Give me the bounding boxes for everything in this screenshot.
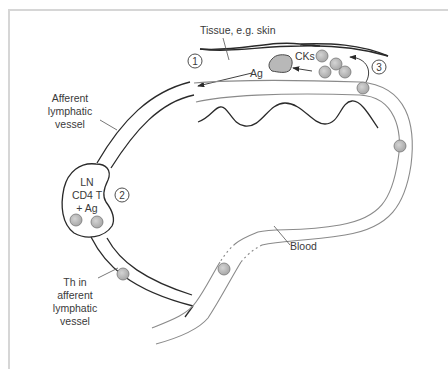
blood-label: Blood	[290, 240, 317, 252]
step-1-marker: 1	[188, 54, 202, 68]
afferent-lymphatic-vessel-outer	[97, 82, 190, 163]
afferent-leader	[100, 120, 117, 130]
t-cell-in-lymph	[117, 268, 129, 280]
step-3-marker: 3	[372, 60, 386, 74]
afferent-lymphatic-vessel-inner	[111, 95, 194, 168]
antigen-blob	[269, 55, 292, 73]
blood-vessel-inner	[194, 81, 412, 245]
cks-label: CKs	[295, 50, 315, 62]
afferent-label-line3: vessel	[55, 118, 85, 130]
afferent-label-line2: lymphatic	[48, 105, 92, 117]
t-cell-in-blood	[218, 263, 230, 275]
t-cell-in-node	[91, 216, 103, 228]
th-label-line3: lymphatic	[53, 302, 97, 314]
blood-vessel-lower-inner	[156, 262, 241, 344]
t-cell-in-blood	[357, 82, 369, 94]
blood-vessel-outer	[196, 94, 399, 244]
efferent-lymphatic-inner	[107, 238, 192, 295]
ln-label-line1: LN	[80, 176, 93, 188]
th-label-line2: afferent	[57, 289, 92, 301]
t-cell	[339, 66, 351, 78]
blood-vessel-lower-outer	[152, 262, 220, 328]
extravasation-arrow	[350, 57, 369, 82]
cks-arrow	[293, 68, 312, 71]
t-cell-in-node	[70, 214, 82, 226]
th-label-line4: vessel	[60, 315, 90, 327]
t-cell	[319, 66, 331, 78]
th-leader	[98, 268, 118, 278]
svg-text:2: 2	[119, 190, 125, 201]
ag-to-lymph-arrow	[198, 73, 252, 86]
svg-text:1: 1	[192, 56, 198, 67]
tissue-wavy-line	[198, 101, 378, 128]
ln-label-line3: + Ag	[76, 202, 97, 214]
t-cell	[316, 50, 328, 62]
t-cell-in-blood	[394, 140, 406, 152]
step-2-marker: 2	[115, 188, 129, 202]
svg-text:3: 3	[376, 62, 382, 73]
th-label-line1: Th in	[63, 276, 87, 288]
ln-label-line2: CD4 T	[72, 189, 103, 201]
ag-label: Ag	[250, 67, 263, 79]
tissue-label: Tissue, e.g. skin	[200, 24, 276, 36]
afferent-label-line1: Afferent	[52, 92, 89, 104]
efferent-lymphatic-outer	[91, 237, 193, 306]
